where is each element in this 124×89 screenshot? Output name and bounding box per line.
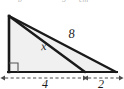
base-right-label: 2 [98,77,104,89]
base-left-label: 4 [42,77,48,89]
triangle-diagram-svg: 8 x 4 2 [0,0,124,89]
hypotenuse-label: 8 [68,26,77,42]
geometry-figure: b 5 cm 8 x [0,0,124,89]
